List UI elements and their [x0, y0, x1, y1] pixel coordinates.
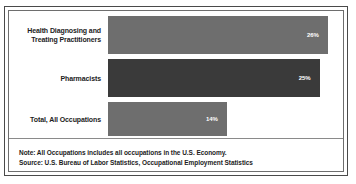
- chart-figure-inner-frame: Health Diagnosing and Treating Practitio…: [8, 10, 344, 172]
- bar-category-label-line1: Total, All Occupations: [9, 115, 101, 124]
- chart-figure-frame: Health Diagnosing and Treating Practitio…: [4, 6, 348, 176]
- chart-footnotes: Note: All Occupations includes all occup…: [9, 140, 343, 167]
- bar-category-label-line1: Health Diagnosing and: [9, 26, 101, 35]
- bar-pharmacists: 25%: [108, 59, 320, 97]
- bar-row: Total, All Occupations 14%: [9, 102, 343, 136]
- footnote-source: Source: U.S. Bureau of Labor Statistics,…: [19, 158, 343, 168]
- bar-track: 26%: [108, 16, 343, 54]
- bar-category-label-line1: Pharmacists: [9, 74, 101, 83]
- bar-category-label: Total, All Occupations: [9, 115, 108, 124]
- bar-chart-plot-area: Health Diagnosing and Treating Practitio…: [9, 11, 343, 139]
- bar-value-label: 26%: [307, 32, 328, 38]
- bar-track: 14%: [108, 102, 343, 136]
- bar-category-label: Pharmacists: [9, 74, 108, 83]
- bar-value-label: 25%: [299, 75, 320, 81]
- bar-category-label-line2: Treating Practitioners: [9, 35, 101, 44]
- bar-track: 25%: [108, 59, 343, 97]
- bar-health-diagnosing-and-treating-practitioners: 26%: [108, 16, 328, 54]
- bar-value-label: 14%: [206, 116, 227, 122]
- footnote-note: Note: All Occupations includes all occup…: [19, 148, 343, 158]
- bar-row: Health Diagnosing and Treating Practitio…: [9, 16, 343, 54]
- bar-row: Pharmacists 25%: [9, 59, 343, 97]
- bar-category-label: Health Diagnosing and Treating Practitio…: [9, 26, 108, 44]
- bar-total-all-occupations: 14%: [108, 102, 227, 136]
